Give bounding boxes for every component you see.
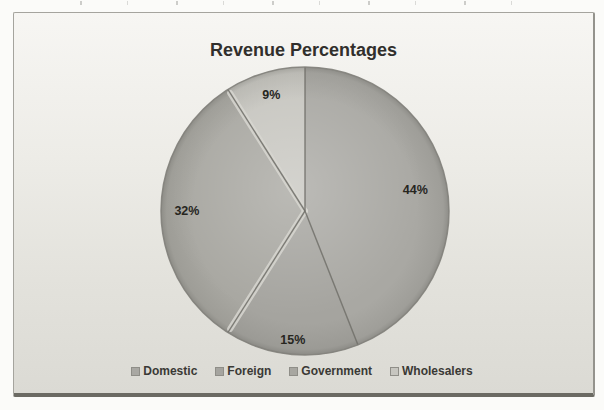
legend-label-foreign: Foreign <box>227 364 271 378</box>
legend-swatch-icon-foreign <box>215 367 224 376</box>
legend-swatch-icon-government <box>289 367 298 376</box>
legend-item-wholesalers: Wholesalers <box>390 364 473 378</box>
legend-item-foreign: Foreign <box>215 364 271 378</box>
pie-chart: 44%15%32%9% <box>0 0 604 410</box>
legend-swatch-icon-domestic <box>131 367 140 376</box>
pie-label-government: 32% <box>174 204 199 218</box>
legend-label-government: Government <box>301 364 372 378</box>
legend-label-wholesalers: Wholesalers <box>402 364 473 378</box>
book-page: Revenue Percentages 44%15%32%9% Domestic… <box>0 0 604 410</box>
legend-swatch-icon-wholesalers <box>390 367 399 376</box>
legend-label-domestic: Domestic <box>143 364 197 378</box>
pie-label-domestic: 44% <box>403 183 428 197</box>
legend-item-government: Government <box>289 364 372 378</box>
pie-label-wholesalers: 9% <box>262 88 280 102</box>
chart-legend: DomesticForeignGovernmentWholesalers <box>0 362 604 380</box>
legend-item-domestic: Domestic <box>131 364 197 378</box>
pie-label-foreign: 15% <box>280 333 305 347</box>
